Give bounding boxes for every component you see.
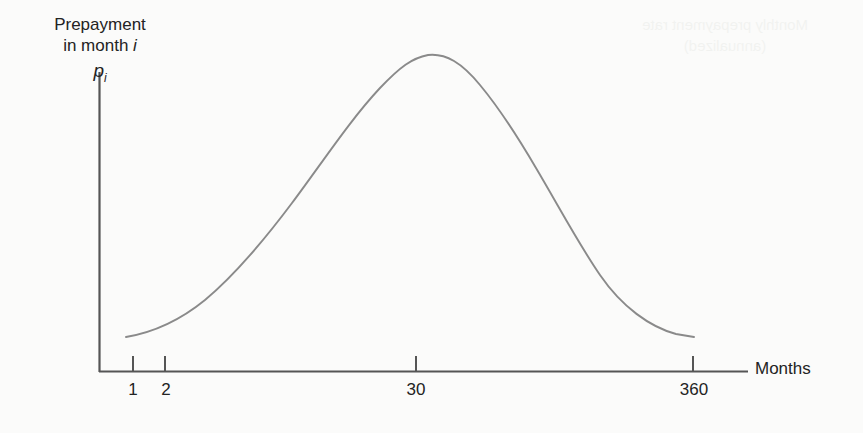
- x-tick-label-30: 30: [407, 380, 426, 400]
- prepayment-curve: [126, 55, 694, 337]
- x-axis-label: Months: [755, 358, 811, 379]
- x-tick-label-1: 1: [128, 380, 137, 400]
- y-axis-symbol-subscript: i: [104, 71, 107, 85]
- x-tick-label-2: 2: [161, 380, 170, 400]
- y-axis-label-line2-variable: i: [133, 36, 137, 55]
- x-tick-label-360: 360: [680, 380, 708, 400]
- y-axis-symbol-base: p: [93, 60, 104, 81]
- y-axis-label: Prepayment in month i pi: [36, 14, 164, 89]
- figure-canvas: Monthly prepayment rate (annualized) Pre…: [0, 0, 863, 433]
- y-axis-label-line2-prefix: in month: [63, 36, 133, 55]
- y-axis-symbol: pi: [36, 60, 164, 89]
- y-axis-label-line2: in month i: [63, 36, 137, 55]
- y-axis-label-line1: Prepayment: [54, 15, 146, 34]
